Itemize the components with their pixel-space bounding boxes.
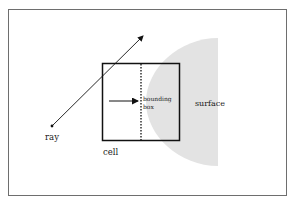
bounding-box-label-line1: bounding xyxy=(143,95,172,103)
ray-cell-bounding-box-diagram: ray cell bounding box surface xyxy=(0,0,293,203)
surface-label: surface xyxy=(195,99,225,108)
ray-label: ray xyxy=(45,132,59,142)
bounding-box-label-line2: box xyxy=(143,103,154,110)
cell-label: cell xyxy=(103,147,119,157)
